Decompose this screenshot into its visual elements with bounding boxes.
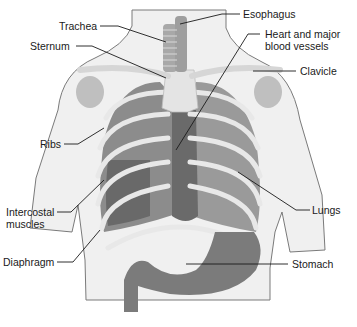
label-clavicle: Clavicle (300, 65, 337, 77)
label-intercostal-line1: Intercostal (6, 206, 54, 218)
heart (172, 110, 198, 221)
label-lungs: Lungs (312, 204, 341, 216)
label-heart-vessels: Heart and major blood vessels (265, 28, 340, 52)
label-intercostal-muscles: Intercostal muscles (6, 206, 54, 230)
right-shoulder-joint (254, 76, 282, 108)
esophagus (175, 16, 187, 72)
label-diaphragm: Diaphragm (3, 256, 54, 268)
label-heart-line2: blood vessels (265, 40, 340, 52)
label-trachea: Trachea (59, 20, 97, 32)
label-ribs: Ribs (40, 138, 61, 150)
label-intercostal-line2: muscles (6, 218, 54, 230)
label-heart-line1: Heart and major (265, 28, 340, 40)
label-sternum: Sternum (30, 40, 70, 52)
left-shoulder-joint (76, 76, 104, 108)
label-stomach: Stomach (292, 258, 333, 270)
label-esophagus: Esophagus (243, 8, 296, 20)
